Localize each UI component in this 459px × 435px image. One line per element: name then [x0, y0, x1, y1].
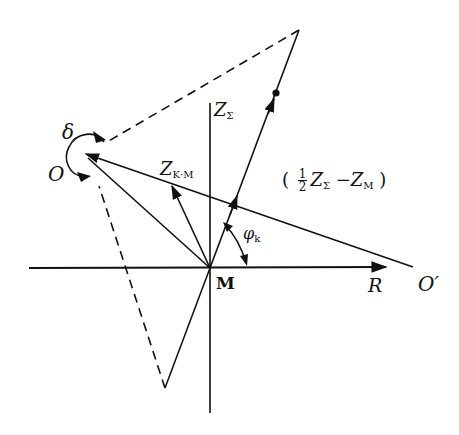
dashed-line-bottom: [99, 186, 165, 388]
expr-minus: −: [336, 169, 351, 190]
phi-sub: k: [254, 233, 260, 244]
point-o-label: O: [48, 164, 64, 184]
r-axis: [29, 267, 386, 268]
expression-label: ( 1 2 ZΣ −ZM ): [282, 168, 386, 193]
z-km-main: Z: [160, 158, 173, 179]
delta-label: δ: [62, 122, 74, 142]
phi-main: φ: [243, 224, 254, 243]
expr-z-m-sub: M: [363, 180, 373, 191]
impedance-diagram: [0, 0, 459, 435]
phi-arc-arrow-end: [240, 254, 248, 266]
point-o-prime-label: O′: [418, 274, 439, 294]
point-m-label: M: [216, 275, 235, 292]
vector-z-km: [172, 186, 210, 268]
point-on-top-line: [272, 89, 279, 96]
r-axis-label: R: [368, 276, 382, 295]
expr-fraction: 1 2: [298, 168, 308, 193]
z-sigma-main: Z: [214, 99, 227, 120]
z-sigma-sub: Σ: [227, 110, 234, 121]
dashed-line-top: [107, 30, 299, 142]
expr-z-m: Z: [351, 169, 364, 190]
expr-z-sigma-sub: Σ: [323, 180, 330, 191]
expr-open-paren: (: [282, 169, 289, 190]
z-km-label: ZK·M: [160, 160, 193, 180]
z-sigma-label: ZΣ: [214, 101, 234, 121]
phi-k-label: φk: [243, 226, 260, 244]
z-km-sub: K·M: [173, 169, 194, 180]
expr-close-paren: ): [379, 169, 386, 190]
expr-z-sigma: Z: [310, 169, 323, 190]
expr-denominator: 2: [298, 181, 308, 193]
delta-arc-arrow-bottom: [77, 172, 91, 182]
line-m-to-bottom-vertex: [165, 268, 210, 388]
arrow-on-top-line-upper: [268, 99, 274, 114]
